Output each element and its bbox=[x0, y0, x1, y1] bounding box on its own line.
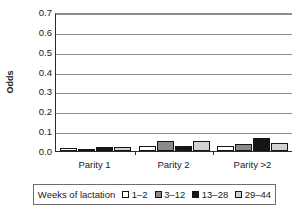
legend-item[interactable]: 13–28 bbox=[192, 189, 228, 200]
legend-item-label: 1–2 bbox=[132, 189, 148, 200]
legend-swatch-icon bbox=[155, 191, 162, 198]
bar-group bbox=[56, 14, 135, 151]
legend-item[interactable]: 1–2 bbox=[122, 189, 147, 200]
chart-legend: Weeks of lactation 1–23–1213–2829–44 bbox=[33, 184, 276, 205]
bar-group bbox=[213, 14, 292, 151]
bar[interactable] bbox=[96, 147, 113, 151]
y-axis-tick-label: 0.3 bbox=[20, 87, 52, 97]
y-axis-tick-label: 0.7 bbox=[20, 8, 52, 18]
y-axis-tick-label: 0.4 bbox=[20, 68, 52, 78]
bar[interactable] bbox=[78, 149, 95, 151]
x-axis-line bbox=[56, 151, 292, 152]
bar[interactable] bbox=[157, 141, 174, 151]
bar[interactable] bbox=[60, 148, 77, 151]
y-axis-tick-label: 0.6 bbox=[20, 28, 52, 38]
y-axis-tick-label: 0.1 bbox=[20, 127, 52, 137]
x-axis-tick-labels: Parity 1Parity 2Parity >2 bbox=[55, 159, 292, 170]
bar[interactable] bbox=[235, 144, 252, 151]
y-axis-title: Odds bbox=[2, 52, 16, 112]
bar-group bbox=[135, 14, 214, 151]
y-axis-tick-labels: 0.70.60.50.40.30.20.10.0 bbox=[16, 13, 52, 152]
legend-items: 1–23–1213–2829–44 bbox=[122, 189, 271, 200]
legend-swatch-icon bbox=[192, 191, 199, 198]
legend-item[interactable]: 3–12 bbox=[155, 189, 186, 200]
legend-item-label: 3–12 bbox=[164, 189, 185, 200]
bar[interactable] bbox=[175, 146, 192, 151]
axis-tick-mark bbox=[213, 151, 214, 155]
bar[interactable] bbox=[139, 146, 156, 151]
bar[interactable] bbox=[114, 147, 131, 151]
legend-item-label: 13–28 bbox=[202, 189, 228, 200]
bar[interactable] bbox=[193, 141, 210, 151]
legend-item[interactable]: 29–44 bbox=[235, 189, 271, 200]
legend-item-label: 29–44 bbox=[245, 189, 271, 200]
plot-area bbox=[55, 13, 292, 152]
axis-tick-mark bbox=[135, 151, 136, 155]
y-axis-tick-label: 0.2 bbox=[20, 107, 52, 117]
y-axis-tick-label: 0.5 bbox=[20, 48, 52, 58]
legend-swatch-icon bbox=[235, 191, 242, 198]
bar[interactable] bbox=[271, 143, 288, 151]
x-axis-tick-label: Parity >2 bbox=[213, 159, 292, 170]
bar-groups bbox=[56, 14, 292, 151]
bar[interactable] bbox=[217, 146, 234, 151]
x-axis-tick-label: Parity 1 bbox=[55, 159, 134, 170]
y-axis-title-label: Odds bbox=[4, 70, 14, 93]
bar-chart: Odds 0.70.60.50.40.30.20.10.0 Parity 1Pa… bbox=[0, 0, 307, 213]
x-axis-tick-label: Parity 2 bbox=[134, 159, 213, 170]
y-axis-tick-label: 0.0 bbox=[20, 147, 52, 157]
legend-title: Weeks of lactation bbox=[38, 189, 115, 200]
bar[interactable] bbox=[253, 138, 270, 151]
legend-swatch-icon bbox=[122, 191, 129, 198]
